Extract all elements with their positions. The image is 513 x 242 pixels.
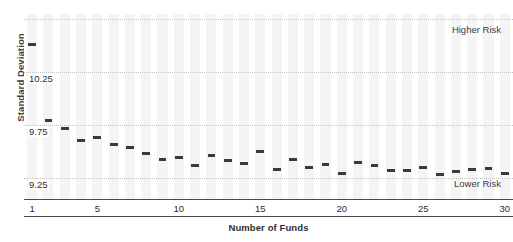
column-band [141,14,151,199]
data-marker [126,146,134,149]
column-band [353,14,363,199]
x-axis-title: Number of Funds [24,222,513,233]
x-tick-label: 5 [95,203,100,214]
gridline [24,72,513,73]
column-band [27,14,37,199]
column-band [174,14,184,199]
gridline [24,125,513,126]
data-marker [159,158,167,161]
data-marker [436,173,444,176]
x-tick-label: 1 [29,203,34,214]
column-band [304,14,314,199]
data-marker [273,168,281,171]
x-tick-label: 10 [174,203,185,214]
plot-area [24,14,513,199]
x-axis-line-bottom [24,216,513,217]
y-tick-label: 10.25 [28,73,54,84]
data-marker [28,43,36,46]
data-marker [175,156,183,159]
column-band [157,14,167,199]
data-marker [501,172,509,175]
data-marker [93,136,101,139]
y-tick-label: 9.75 [28,126,49,137]
column-band [435,14,445,199]
column-band [467,14,477,199]
data-marker [403,169,411,172]
data-marker [240,162,248,165]
data-marker [45,119,53,122]
data-marker [305,166,313,169]
x-tick-label: 25 [418,203,429,214]
data-marker [354,161,362,164]
column-band [223,14,233,199]
data-marker [191,164,199,167]
data-marker [289,158,297,161]
column-band [109,14,119,199]
y-tick-label: 9.25 [28,179,49,190]
column-band [320,14,330,199]
column-band [369,14,379,199]
column-band [418,14,428,199]
data-marker [224,159,232,162]
column-band [76,14,86,199]
chart-container: Standard Deviation 9.259.7510.25 Higher … [0,0,513,242]
annotation-lower-risk: Lower Risk [454,178,501,189]
data-marker [387,169,395,172]
x-axis-line-top [24,199,513,200]
data-marker [322,163,330,166]
column-band [190,14,200,199]
data-marker [142,152,150,155]
column-band [483,14,493,199]
data-marker [61,127,69,130]
x-tick-label: 15 [255,203,266,214]
x-tick-label: 20 [337,203,348,214]
column-band [288,14,298,199]
data-marker [468,168,476,171]
data-marker [110,143,118,146]
column-band [255,14,265,199]
data-marker [452,170,460,173]
column-band [92,14,102,199]
column-band [125,14,135,199]
column-band [60,14,70,199]
data-marker [485,167,493,170]
data-marker [77,139,85,142]
data-marker [338,172,346,175]
annotation-higher-risk: Higher Risk [452,24,501,35]
gridline [24,178,513,179]
gridline [24,19,513,20]
data-marker [419,166,427,169]
column-band [272,14,282,199]
data-marker [208,154,216,157]
column-band [206,14,216,199]
data-marker [256,150,264,153]
x-tick-label: 30 [500,203,511,214]
column-band [239,14,249,199]
data-marker [371,164,379,167]
column-band [43,14,53,199]
